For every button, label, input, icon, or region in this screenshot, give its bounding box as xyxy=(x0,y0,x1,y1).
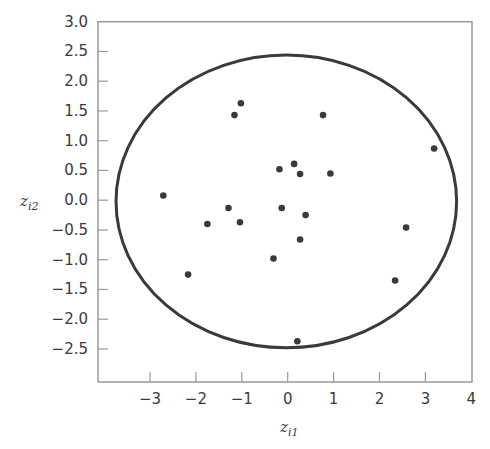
y-tick-label: −1.0 xyxy=(52,251,88,269)
y-tick-label: 0.5 xyxy=(64,161,88,179)
data-point xyxy=(297,171,304,178)
data-point xyxy=(320,112,327,119)
y-tick-label: 2.0 xyxy=(64,72,88,90)
x-tick-label: −2 xyxy=(185,390,207,408)
y-axis-label: zi2 xyxy=(19,192,38,213)
y-tick-label: 2.5 xyxy=(64,42,88,60)
control-ellipse xyxy=(116,55,457,348)
x-tick-label: −3 xyxy=(139,390,161,408)
data-point xyxy=(276,166,283,173)
data-point xyxy=(291,161,298,168)
x-tick-label: 3 xyxy=(421,390,431,408)
x-axis: −3−2−101234 xyxy=(139,372,476,408)
data-point xyxy=(160,192,167,199)
data-point xyxy=(431,145,438,152)
data-point xyxy=(204,221,211,228)
x-axis-label: zi1 xyxy=(279,418,298,439)
data-point xyxy=(327,170,334,177)
y-tick-label: 3.0 xyxy=(64,13,88,31)
data-point xyxy=(297,236,304,243)
data-points xyxy=(160,100,437,345)
data-point xyxy=(237,219,244,226)
scatter-chart: 3.02.52.01.51.00.50.0−0.5−1.0−1.5−2.0−2.… xyxy=(0,0,490,449)
y-tick-label: −0.5 xyxy=(52,221,88,239)
x-tick-label: 2 xyxy=(375,390,385,408)
plot-frame xyxy=(98,22,472,382)
data-point xyxy=(278,205,285,212)
y-tick-label: 0.0 xyxy=(64,191,88,209)
x-tick-label: 4 xyxy=(467,390,477,408)
data-point xyxy=(225,205,232,212)
y-tick-label: −2.5 xyxy=(52,340,88,358)
y-tick-label: −1.5 xyxy=(52,280,88,298)
y-tick-label: 1.0 xyxy=(64,132,88,150)
chart-canvas: 3.02.52.01.51.00.50.0−0.5−1.0−1.5−2.0−2.… xyxy=(0,0,490,449)
data-point xyxy=(231,112,238,119)
data-point xyxy=(392,277,399,284)
y-tick-label: 1.5 xyxy=(64,102,88,120)
x-tick-label: 0 xyxy=(283,390,293,408)
data-point xyxy=(238,100,245,107)
y-tick-label: −2.0 xyxy=(52,310,88,328)
data-point xyxy=(294,338,301,345)
x-tick-label: 1 xyxy=(329,390,339,408)
data-point xyxy=(185,271,192,278)
data-point xyxy=(302,212,309,219)
data-point xyxy=(403,224,410,231)
y-axis: 3.02.52.01.51.00.50.0−0.5−1.0−1.5−2.0−2.… xyxy=(52,13,108,358)
data-point xyxy=(270,255,277,262)
x-tick-label: −1 xyxy=(231,390,253,408)
